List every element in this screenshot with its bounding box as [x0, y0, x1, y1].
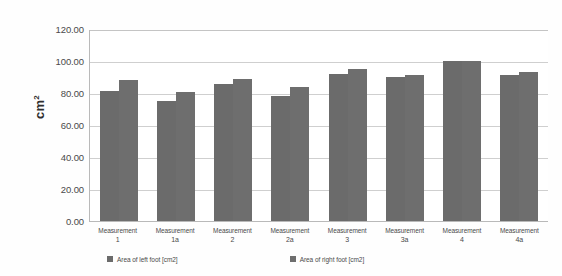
x-axis-tick-label-line1: Measurement	[385, 227, 424, 234]
x-axis-tick-label-line2: 2a	[261, 235, 318, 245]
y-axis-tick-label: 40.00	[36, 153, 84, 163]
x-axis-tick-label-line1: Measurement	[500, 227, 539, 234]
y-axis-tick-label: 60.00	[36, 121, 84, 131]
bar-left-foot[interactable]	[157, 101, 176, 221]
chart-legend: Area of left foot [cm2]Area of right foo…	[89, 252, 548, 266]
x-axis-tick-label-line2: 1a	[146, 235, 203, 245]
bars-layer	[90, 30, 548, 221]
y-axis-tick-label: 100.00	[36, 57, 84, 67]
legend-item-label: Area of left foot [cm2]	[117, 256, 178, 263]
bar-left-foot[interactable]	[100, 91, 119, 221]
legend-swatch-icon	[290, 256, 296, 262]
legend-item[interactable]: Area of left foot [cm2]	[107, 252, 178, 266]
x-axis-tick-label-line1: Measurement	[443, 227, 482, 234]
x-axis-tick-label-line2: 3	[319, 235, 376, 245]
y-axis-tick-labels: 120.00100.0080.0060.0040.0020.000.00	[40, 22, 88, 222]
bar-right-foot[interactable]	[519, 72, 538, 221]
bar-group	[262, 30, 319, 221]
bar-right-foot[interactable]	[348, 69, 367, 221]
bar-left-foot[interactable]	[443, 61, 462, 221]
x-axis-tick-label-line2: 2	[204, 235, 261, 245]
bar-group	[319, 30, 376, 221]
bar-left-foot[interactable]	[271, 96, 290, 221]
bar-group	[434, 30, 491, 221]
x-axis-tick-label-line1: Measurement	[98, 227, 137, 234]
bar-group	[90, 30, 147, 221]
y-axis-tick-label: 80.00	[36, 89, 84, 99]
x-axis-tick-label-line2: 3a	[376, 235, 433, 245]
legend-item-label: Area of right foot [cm2]	[300, 256, 365, 263]
x-axis-tick-label-line1: Measurement	[270, 227, 309, 234]
x-axis-tick-label-line1: Measurement	[328, 227, 367, 234]
legend-item[interactable]: Area of right foot [cm2]	[290, 252, 365, 266]
bar-left-foot[interactable]	[386, 77, 405, 221]
bar-group	[491, 30, 548, 221]
x-axis-tick-label-line1: Measurement	[156, 227, 195, 234]
x-axis-tick-label-line2: 4	[433, 235, 490, 245]
bar-right-foot[interactable]	[119, 80, 138, 221]
bar-right-foot[interactable]	[462, 61, 481, 221]
bar-left-foot[interactable]	[500, 75, 519, 221]
bar-right-foot[interactable]	[290, 87, 309, 221]
x-axis-tick-label-line2: 1	[89, 235, 146, 245]
y-axis-tick-label: 120.00	[36, 25, 84, 35]
legend-swatch-icon	[107, 256, 113, 262]
y-axis-tick-label: 0.00	[36, 217, 84, 227]
x-axis-tick-label-line2: 4a	[491, 235, 548, 245]
bar-right-foot[interactable]	[233, 79, 252, 221]
bar-left-foot[interactable]	[329, 74, 348, 221]
bar-chart: cm2 120.00100.0080.0060.0040.0020.000.00…	[0, 0, 562, 276]
bar-group	[205, 30, 262, 221]
bar-left-foot[interactable]	[214, 84, 233, 221]
bar-group	[376, 30, 433, 221]
bar-group	[147, 30, 204, 221]
x-axis-tick-label-line1: Measurement	[213, 227, 252, 234]
bar-right-foot[interactable]	[405, 75, 424, 221]
bar-right-foot[interactable]	[176, 92, 195, 221]
plot-area	[89, 30, 548, 222]
y-axis-tick-label: 20.00	[36, 185, 84, 195]
